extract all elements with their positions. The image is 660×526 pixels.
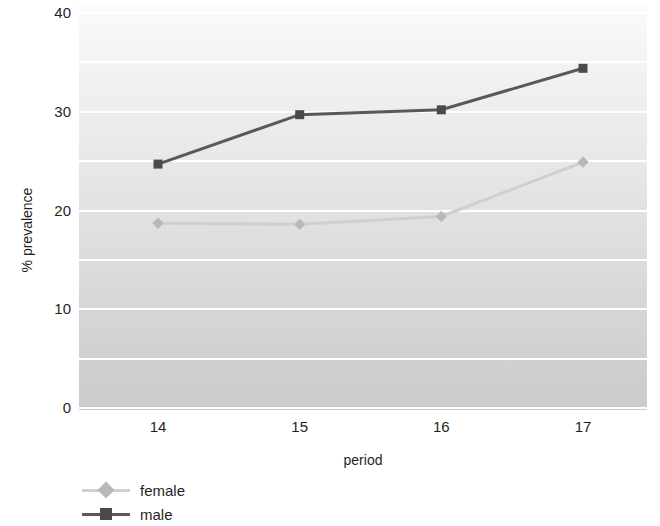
legend-label: female — [140, 482, 185, 499]
data-point-marker — [154, 160, 163, 169]
data-point-marker — [437, 105, 446, 114]
x-axis-title: period — [79, 452, 647, 468]
series-line — [158, 162, 583, 224]
data-point-marker — [294, 219, 305, 230]
series-female — [152, 156, 588, 230]
data-point-marker — [579, 64, 588, 73]
legend-key — [82, 505, 130, 523]
y-axis-tick-label: 0 — [7, 400, 71, 415]
chart-legend: femalemale — [82, 478, 342, 526]
x-axis-tick-label: 15 — [270, 419, 330, 434]
plot-area — [79, 4, 647, 410]
y-axis-title: % prevalence — [19, 160, 35, 300]
line-chart: 010203040 % prevalence 14151617 period f… — [0, 0, 660, 526]
x-axis-tick-label: 17 — [553, 419, 613, 434]
y-axis-tick-labels: 010203040 — [0, 0, 71, 526]
y-axis-tick-label: 10 — [7, 301, 71, 316]
y-axis-tick-label: 40 — [7, 5, 71, 20]
legend-key — [82, 481, 130, 499]
x-axis-tick-label: 14 — [128, 419, 188, 434]
data-point-marker — [577, 156, 588, 167]
legend-label: male — [140, 506, 173, 523]
y-axis-tick-label: 30 — [7, 104, 71, 119]
y-axis-tick-label: 20 — [7, 203, 71, 218]
legend-item-female[interactable]: female — [82, 478, 342, 502]
x-axis-tick-label: 16 — [411, 419, 471, 434]
data-point-marker — [152, 218, 163, 229]
data-point-marker — [295, 110, 304, 119]
data-series-layer — [79, 4, 647, 410]
legend-marker-diamond-icon — [98, 482, 115, 499]
data-point-marker — [436, 211, 447, 222]
series-line — [158, 68, 583, 164]
series-male — [154, 64, 588, 169]
legend-marker-square-icon — [100, 508, 112, 520]
legend-item-male[interactable]: male — [82, 502, 342, 526]
